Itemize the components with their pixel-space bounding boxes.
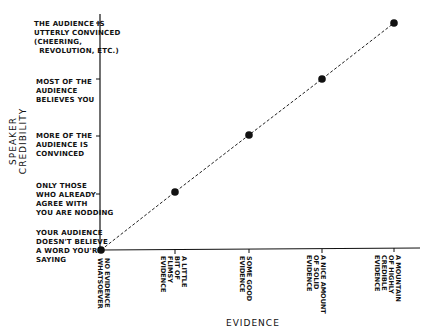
- x-label-3: A NICE AMOUNT OF SOLID EVIDENCE: [305, 255, 326, 314]
- y-label-3: MOST OF THE AUDIENCE BELIEVES YOU: [36, 78, 95, 105]
- y-label-1: ONLY THOSE WHO ALREADY AGREE WITH YOU AR…: [36, 182, 114, 218]
- x-label-0: NO EVIDENCE WHATSOEVER: [96, 258, 110, 309]
- data-points: [97, 19, 398, 254]
- y-label-4: THE AUDIENCE IS UTTERLY CONVINCED (CHEER…: [34, 20, 120, 56]
- x-label-2: SOME GOOD EVIDENCE: [238, 256, 252, 301]
- x-axis: [100, 248, 420, 250]
- x-label-4: A MOUNTAIN OF HIGHLY CREDIBLE EVIDENCE: [373, 255, 401, 302]
- y-axis-title: SPEAKER CREDIBILITY: [8, 101, 28, 181]
- y-label-2: MORE OF THE AUDIENCE IS CONVINCED: [36, 132, 92, 159]
- x-label-1: A LITTLE BIT OF FLIMSY EVIDENCE: [159, 256, 187, 292]
- x-axis-title: EVIDENCE: [226, 318, 280, 328]
